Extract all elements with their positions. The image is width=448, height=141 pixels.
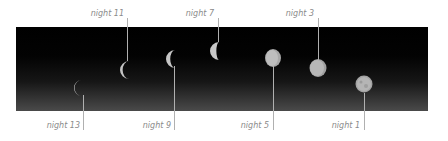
leader-line-night-7 (218, 18, 219, 42)
label-night-5: night 5 (229, 121, 269, 130)
leader-line-night-9 (174, 66, 175, 130)
moon-gibbous-night-3-icon (309, 58, 327, 78)
night-sky-photo (16, 27, 428, 111)
moon-gibbous-night-5-icon (264, 48, 282, 68)
moon-crescent-night-13-icon (73, 79, 89, 97)
label-night-1: night 1 (320, 121, 360, 130)
moon-crescent-night-11-icon (119, 60, 135, 80)
moon-full-night-1-icon (355, 75, 373, 93)
leader-line-night-11 (127, 18, 128, 61)
label-night-13: night 13 (40, 121, 80, 130)
label-night-9: night 9 (131, 121, 171, 130)
leader-line-night-3 (318, 18, 319, 60)
leader-line-night-13 (83, 95, 84, 130)
label-night-3: night 3 (274, 9, 314, 18)
leader-line-night-5 (273, 66, 274, 130)
label-night-7: night 7 (174, 9, 214, 18)
moon-quarter-night-7-icon (209, 41, 227, 61)
moon-crescent-night-9-icon (165, 49, 181, 69)
label-night-11: night 11 (84, 9, 124, 18)
leader-line-night-1 (364, 93, 365, 130)
